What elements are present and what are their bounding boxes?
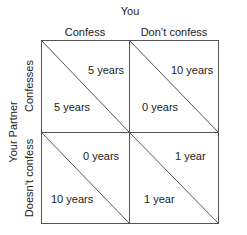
payoff-you-confess-dontconfess: 0 years — [83, 151, 119, 162]
payoff-you-confess-confess: 5 years — [88, 65, 124, 76]
payoff-you-dontconfess-confess: 10 years — [171, 65, 213, 76]
diagonal-cell-1-1 — [42, 41, 130, 133]
payoff-matrix-grid — [0, 0, 247, 235]
diagonal-cell-2-1 — [42, 133, 130, 224]
payoff-partner-confess-confess: 5 years — [54, 102, 90, 113]
payoff-partner-dontconfess-dontconfess: 1 year — [144, 194, 175, 205]
payoff-you-dontconfess-dontconfess: 1 year — [175, 151, 206, 162]
payoff-partner-dontconfess-confess: 0 years — [142, 102, 178, 113]
diagonal-cell-2-2 — [130, 133, 219, 224]
diagonal-cell-1-2 — [130, 41, 219, 133]
payoff-partner-confess-dontconfess: 10 years — [51, 194, 93, 205]
